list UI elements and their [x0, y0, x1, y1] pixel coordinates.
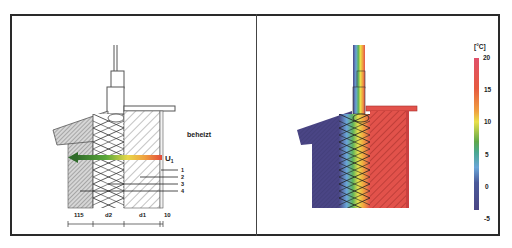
legend-unit: [°C]: [474, 43, 486, 51]
window-sash: [111, 71, 124, 88]
outer-brick-wall: [68, 140, 93, 208]
legend-color-bar: [474, 58, 479, 210]
window-sill: [124, 106, 175, 111]
callout-4: 4: [181, 188, 185, 194]
insulation-layer: [93, 114, 124, 212]
heat-flow-label: U1: [165, 154, 174, 164]
dimension-115: 115: [74, 212, 84, 218]
callout-2: 2: [181, 174, 184, 180]
window-sill-thermal: [366, 106, 417, 111]
legend-tick-0: 0: [485, 183, 489, 190]
legend-tick-5: 5: [485, 151, 489, 158]
dimension-line: [68, 221, 163, 227]
outer-brick-wall-thermal: [312, 140, 339, 208]
window-frame: [107, 87, 124, 114]
insulation-layer-thermal: [339, 114, 370, 212]
temperature-legend: [°C] 20 15 10 5 0 -5: [474, 43, 492, 222]
dimension-d1: d1: [139, 212, 147, 218]
legend-tick-minus5: -5: [484, 215, 490, 222]
interior-plaster-thermal: [406, 111, 409, 208]
dimension-d2: d2: [105, 212, 113, 218]
callout-1: 1: [181, 167, 184, 173]
legend-tick-20: 20: [483, 54, 491, 61]
legend-tick-10: 10: [484, 118, 492, 125]
thermal-simulation-drawing: [°C] 20 15 10 5 0 -5: [297, 43, 492, 222]
callout-3: 3: [181, 181, 184, 187]
legend-tick-15: 15: [484, 86, 492, 93]
room-label: beheizt: [187, 131, 212, 138]
construction-section-drawing: U1 beheizt 1 2 3 4 115 d2 d1 10: [53, 45, 212, 227]
dimension-10: 10: [164, 212, 171, 218]
window-glass: [114, 45, 117, 72]
inner-wall-thermal: [370, 111, 406, 208]
sealing-joint: [108, 114, 124, 122]
